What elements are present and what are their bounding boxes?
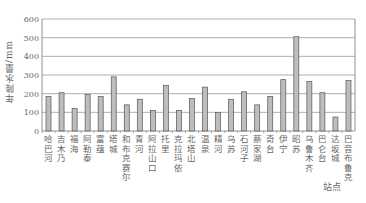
- x-axis-label: 站点: [323, 180, 341, 193]
- bar: [72, 109, 77, 131]
- bar: [255, 105, 260, 131]
- x-tick-label: 福海: [70, 134, 79, 154]
- x-tick-label: 阿拉山口: [148, 134, 157, 173]
- bar: [150, 110, 155, 131]
- bar: [137, 99, 142, 131]
- x-tick-label: 温泉: [201, 134, 210, 154]
- x-tick-label: 克拉玛依: [174, 134, 183, 173]
- y-axis-ticks: 0100200300400500600: [24, 15, 39, 136]
- y-tick-label: 300: [24, 71, 39, 80]
- bar: [176, 110, 181, 131]
- bar: [281, 80, 286, 131]
- x-tick-label: 吉木乃: [57, 134, 66, 163]
- x-tick-label: 富蕴: [96, 134, 105, 154]
- bar: [163, 85, 168, 131]
- y-tick-label: 400: [24, 52, 39, 61]
- bar: [189, 98, 194, 131]
- x-tick-label: 乌鲁木齐: [305, 134, 314, 173]
- bars: [46, 37, 351, 131]
- x-tick-label: 昭苏: [292, 134, 301, 154]
- x-tick-label: 青河: [135, 134, 144, 154]
- x-axis-labels: 哈巴河吉木乃福海阿勒泰富蕴塔城和布克赛尔青河阿拉山口托里克拉玛依北塔山温泉精河乌…: [42, 131, 353, 182]
- x-tick-label: 巴音布鲁克: [344, 134, 353, 182]
- bar: [268, 96, 273, 131]
- x-tick-label: 和布克赛尔: [122, 134, 131, 182]
- x-tick-label: 巴仑台: [318, 134, 327, 163]
- bar: [320, 93, 325, 131]
- y-tick-label: 500: [24, 34, 39, 43]
- bar: [229, 99, 234, 131]
- y-axis-label: 年降水量/mm: [2, 40, 16, 103]
- x-tick-label: 阿勒泰: [83, 134, 92, 163]
- bar: [203, 87, 208, 131]
- bar: [307, 82, 312, 131]
- bar: [98, 96, 103, 131]
- x-tick-label: 托里: [161, 134, 170, 154]
- x-tick-label: 石河子: [240, 134, 249, 163]
- bar: [111, 77, 116, 131]
- x-tick-label: 精河: [214, 134, 223, 154]
- bar: [346, 81, 351, 131]
- y-tick-label: 600: [24, 15, 39, 24]
- x-tick-label: 北塔山: [187, 134, 196, 163]
- x-tick-label: 蔡家湖: [253, 134, 262, 163]
- x-tick-label: 奇台: [266, 134, 275, 154]
- bar: [59, 93, 64, 131]
- y-tick-label: 100: [24, 108, 39, 117]
- bar: [216, 112, 221, 131]
- bar: [333, 117, 338, 131]
- x-tick-label: 塔城: [109, 134, 118, 154]
- x-tick-label: 伊宁: [279, 134, 288, 154]
- bar: [294, 37, 299, 131]
- x-tick-label: 达坂城: [331, 134, 340, 163]
- bar: [85, 95, 90, 131]
- bar: [46, 96, 51, 131]
- bar: [124, 105, 129, 131]
- x-tick-label: 乌苏: [227, 134, 236, 154]
- x-tick-label: 哈巴河: [44, 134, 53, 163]
- y-tick-label: 200: [24, 90, 39, 99]
- bar: [242, 92, 247, 131]
- bar-chart: 0100200300400500600 哈巴河吉木乃福海阿勒泰富蕴塔城和布克赛尔…: [0, 0, 366, 203]
- y-tick-label: 0: [34, 127, 39, 136]
